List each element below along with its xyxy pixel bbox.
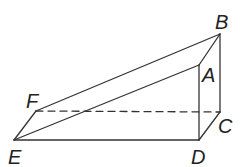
label-C: C — [218, 115, 233, 137]
edge-EA — [14, 65, 199, 140]
label-A: A — [201, 64, 215, 86]
prism-diagram: B A F C E D — [0, 0, 242, 167]
prism-figure: B A F C E D — [0, 0, 242, 167]
label-F: F — [26, 90, 40, 112]
edge-DC — [199, 112, 220, 140]
label-E: E — [8, 146, 22, 167]
label-B: B — [215, 11, 228, 33]
edge-FC-hidden — [36, 111, 220, 112]
edge-FB — [36, 34, 220, 111]
label-D: D — [191, 146, 205, 167]
